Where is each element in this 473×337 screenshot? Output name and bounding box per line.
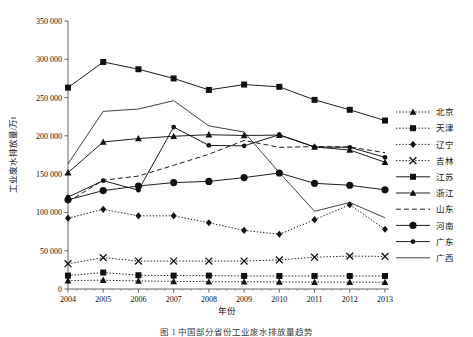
data-point-marker	[277, 132, 282, 137]
data-point-marker	[241, 273, 247, 279]
series-江苏	[65, 59, 388, 124]
data-point-marker	[382, 226, 388, 233]
data-point-marker	[276, 273, 282, 279]
data-point-marker	[346, 182, 353, 189]
x-tick-label: 2010	[271, 295, 287, 304]
data-point-marker	[241, 227, 247, 234]
data-point-marker	[382, 273, 388, 279]
data-point-marker	[206, 87, 212, 93]
data-point-marker	[66, 195, 71, 200]
series-天津	[65, 270, 388, 279]
data-point-marker	[411, 239, 416, 244]
data-point-marker	[242, 143, 247, 148]
series-line	[68, 135, 385, 173]
data-point-marker	[312, 216, 318, 223]
legend-item-山东[interactable]: 山东	[396, 204, 454, 214]
x-tick-label: 2012	[342, 295, 358, 304]
data-point-marker	[381, 186, 388, 193]
legend-item-吉林[interactable]: 吉林	[396, 156, 454, 166]
y-tick-label: 300 000	[36, 55, 62, 64]
legend-label: 辽宁	[436, 140, 454, 150]
series-北京	[65, 277, 389, 285]
data-point-marker	[347, 273, 353, 279]
y-tick-label: 0	[58, 285, 62, 294]
legend-item-广东[interactable]: 广东	[396, 237, 454, 247]
x-tick-label: 2004	[60, 295, 76, 304]
legend-item-河南[interactable]: 河南	[396, 221, 454, 231]
legend-label: 广东	[436, 237, 454, 247]
legend-label: 江苏	[436, 172, 454, 182]
legend-label: 北京	[436, 107, 454, 117]
series-吉林	[65, 253, 389, 267]
data-point-marker	[410, 141, 416, 148]
x-tick-label: 2009	[236, 295, 252, 304]
legend-item-广西[interactable]: 广西	[396, 253, 454, 263]
data-point-marker	[276, 84, 282, 90]
legend-item-北京[interactable]: 北京	[396, 107, 454, 117]
data-point-marker	[171, 273, 177, 279]
series-山东	[68, 140, 385, 201]
series-line	[68, 140, 385, 201]
data-point-marker	[135, 272, 141, 278]
series-line	[68, 280, 385, 282]
x-axis-title: 年份	[218, 306, 236, 316]
data-point-marker	[170, 179, 177, 186]
legend: 北京天津辽宁吉林江苏浙江山东河南广东广西	[396, 107, 454, 263]
legend-label: 山东	[436, 204, 454, 214]
figure-caption: 图 1 中国部分省份工业废水排放量趋势	[0, 326, 473, 337]
data-point-marker	[241, 82, 247, 88]
x-tick-label: 2013	[377, 295, 393, 304]
data-point-marker	[383, 155, 388, 160]
legend-label: 广西	[436, 253, 454, 263]
data-point-marker	[410, 125, 416, 131]
data-point-marker	[135, 212, 141, 219]
data-point-marker	[65, 273, 71, 279]
data-point-marker	[100, 187, 107, 194]
data-point-marker	[312, 145, 317, 150]
legend-label: 河南	[436, 221, 454, 231]
series-line	[68, 62, 385, 121]
data-point-marker	[171, 125, 176, 130]
y-tick-label: 250 000	[36, 94, 62, 103]
legend-item-江苏[interactable]: 江苏	[396, 172, 454, 182]
data-point-marker	[65, 215, 71, 222]
x-tick-label: 2006	[130, 295, 146, 304]
x-tick-label: 2005	[95, 295, 111, 304]
legend-label: 浙江	[436, 188, 454, 198]
series-line	[68, 173, 385, 200]
data-point-marker	[206, 273, 212, 279]
data-point-marker	[276, 231, 282, 238]
data-point-marker	[410, 174, 416, 180]
data-point-marker	[171, 75, 177, 81]
data-point-marker	[382, 118, 388, 124]
data-point-marker	[206, 143, 211, 148]
y-axis-ticks: 050 000100 000150 000200 000250 000300 0…	[36, 17, 68, 294]
x-tick-label: 2008	[201, 295, 217, 304]
line-chart: 050 000100 000150 000200 000250 000300 0…	[0, 0, 473, 337]
series-浙江	[65, 131, 389, 175]
data-point-marker	[171, 212, 177, 219]
data-point-marker	[311, 180, 318, 187]
y-tick-label: 150 000	[36, 170, 62, 179]
legend-item-辽宁[interactable]: 辽宁	[396, 140, 454, 150]
data-point-marker	[100, 206, 106, 213]
series-辽宁	[65, 201, 388, 238]
series-line	[68, 101, 385, 218]
y-tick-label: 100 000	[36, 208, 62, 217]
series-广西	[68, 101, 385, 218]
data-point-marker	[100, 59, 106, 65]
data-point-marker	[347, 107, 353, 113]
data-point-marker	[65, 85, 71, 91]
data-point-marker	[241, 174, 248, 181]
series-河南	[64, 169, 388, 203]
legend-item-浙江[interactable]: 浙江	[396, 188, 454, 198]
data-point-marker	[136, 188, 141, 193]
data-point-marker	[135, 66, 141, 72]
x-tick-label: 2011	[307, 295, 323, 304]
data-point-marker	[100, 270, 106, 276]
y-tick-label: 350 000	[36, 17, 62, 26]
legend-item-天津[interactable]: 天津	[396, 123, 454, 133]
legend-label: 吉林	[436, 156, 454, 166]
series-line	[68, 273, 385, 276]
legend-label: 天津	[436, 123, 454, 133]
